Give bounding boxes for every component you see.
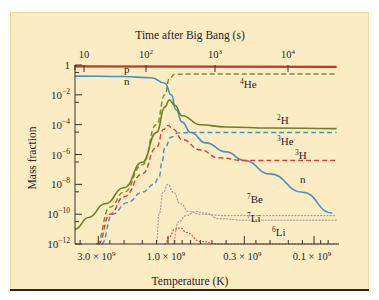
x-tick-label: 1.0 × 109 xyxy=(147,250,186,262)
series-2H xyxy=(75,100,337,229)
top-ticks: 10102103104 xyxy=(79,48,296,72)
x-axis-title: Temperature (K) xyxy=(152,275,229,288)
x-tick-label: 0.1 × 109 xyxy=(293,250,332,262)
curve-label: 4He xyxy=(240,77,257,90)
y-tick-label: 10−12 xyxy=(47,236,70,250)
y-tick-label: 10−10 xyxy=(47,206,70,220)
x-tick-label: 3.0 × 109 xyxy=(77,250,116,262)
top-tick-label: 10 xyxy=(79,49,90,60)
y-tick-label: 10−4 xyxy=(51,117,70,131)
y-tick-label: 10−8 xyxy=(51,176,70,190)
curve-label: p xyxy=(124,63,130,75)
curve-label: 3He xyxy=(277,134,294,147)
curve-labels: pn4He2H3He3Hn7Be7Li6Li xyxy=(124,63,307,238)
top-tick-label: 104 xyxy=(281,48,296,60)
top-tick-label: 102 xyxy=(139,48,154,60)
curve-label: 2H xyxy=(277,113,289,126)
y-tick-label: 10−2 xyxy=(51,87,70,101)
top-tick-label: 103 xyxy=(208,48,223,60)
x-tick-label: 0.3 × 109 xyxy=(223,250,262,262)
y-tick-label: 10−6 xyxy=(51,147,70,161)
y-axis-title: Mass fraction xyxy=(26,126,38,189)
chart-canvas: 110−210−410−610−810−1010−12 3.0 × 1091.0… xyxy=(0,0,379,300)
curve-label: 6Li xyxy=(272,225,286,238)
x-ticks: 3.0 × 1091.0 × 1090.3 × 1090.1 × 109 xyxy=(77,236,331,262)
curve-label: 7Li xyxy=(247,211,261,224)
series-n xyxy=(75,76,332,213)
y-ticks: 110−210−410−610−810−1010−12 xyxy=(47,59,82,250)
curve-label: n xyxy=(124,75,130,87)
curve-label: 7Be xyxy=(247,192,263,205)
curve-label: 3H xyxy=(295,148,307,161)
curve-label: n xyxy=(300,173,306,185)
top-axis-title: Time after Big Bang (s) xyxy=(135,29,245,42)
y-tick-label: 1 xyxy=(65,59,71,71)
